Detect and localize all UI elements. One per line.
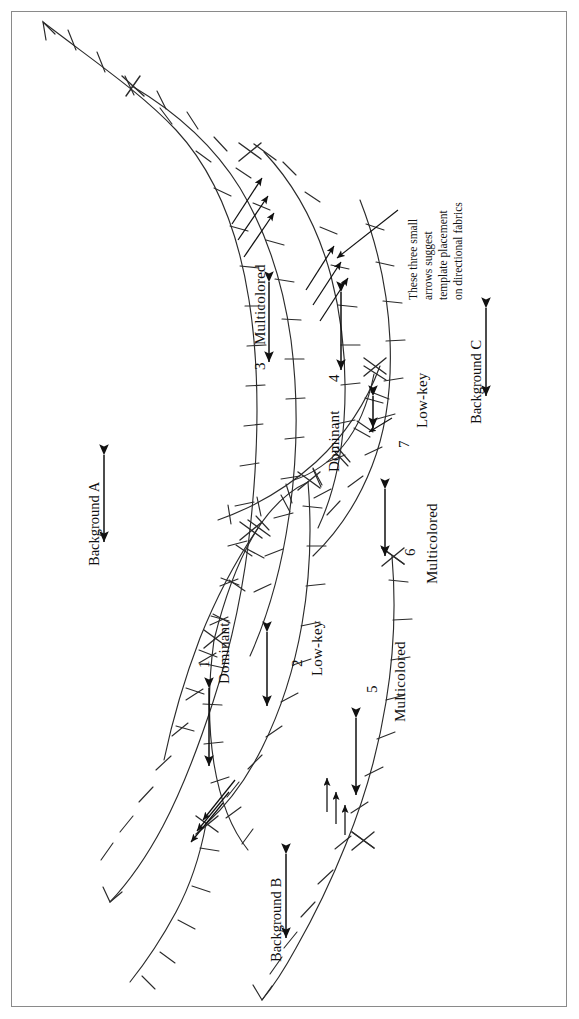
region-7-number: 7 [396, 441, 413, 449]
annotation-line-3: template placement [436, 210, 451, 300]
region-2-number: 2 [289, 660, 306, 668]
annotation-leader-line [337, 210, 398, 258]
annotation-line-2: arrows suggest [421, 231, 436, 300]
region-1-value: Dominant [216, 622, 233, 684]
region-4-number: 4 [326, 375, 343, 383]
background-b-label: Background B [268, 878, 285, 962]
region-1-number: 1 [196, 661, 213, 669]
directional-arrow-group-region-5 [327, 778, 345, 835]
region-5-value: Multicolored [392, 641, 409, 722]
region-6-value: Multicolored [424, 503, 441, 584]
annotation-line-1: These three small [406, 219, 421, 300]
region-4-value: Dominant [326, 410, 343, 472]
annotation-line-4: on directional fabrics [451, 202, 466, 300]
region-3-number: 3 [252, 363, 269, 371]
region-3-value: Multicolored [252, 264, 269, 345]
figure-canvas: Background A Background B Background C 3… [0, 0, 579, 1019]
background-a-label: Background A [86, 482, 103, 566]
background-c-label: Background C [468, 340, 485, 424]
region-2-value: Low-key [309, 620, 326, 676]
region-6-number: 6 [402, 549, 419, 557]
region-7-value: Low-key [414, 372, 431, 428]
region-5-number: 5 [364, 686, 381, 694]
